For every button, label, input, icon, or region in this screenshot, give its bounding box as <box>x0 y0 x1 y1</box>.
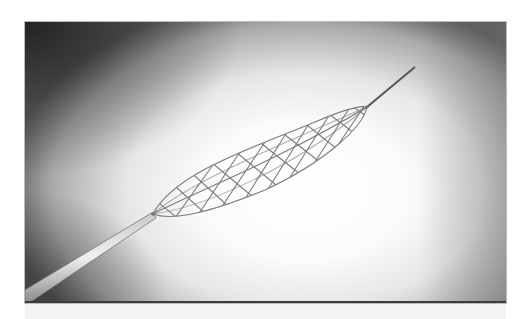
proximal-joint <box>151 212 155 216</box>
photo-border <box>25 301 506 303</box>
guide-wire <box>367 67 415 107</box>
distal-joint <box>365 105 368 108</box>
catheter-shaft <box>25 212 156 303</box>
photo <box>25 22 506 303</box>
stent-retriever-device <box>25 22 506 303</box>
stent-mesh <box>145 100 377 232</box>
bottom-band <box>25 304 506 319</box>
